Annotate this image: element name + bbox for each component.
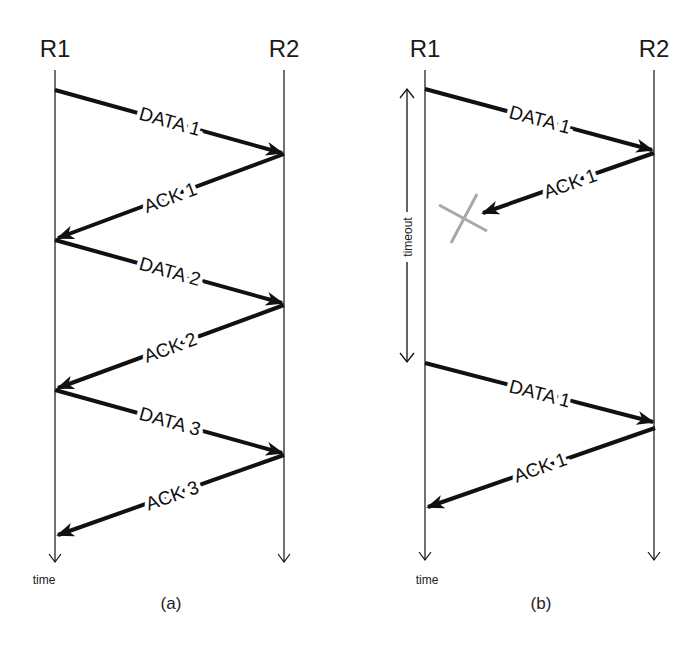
node-label-r1: R1 xyxy=(410,35,441,62)
node-label-r2: R2 xyxy=(269,35,300,62)
message-label: ACK 2 xyxy=(141,328,200,367)
node-label-r1: R1 xyxy=(40,35,71,62)
message-label: DATA 1 xyxy=(507,101,573,138)
timeout-label: timeout xyxy=(401,217,415,257)
message-ack-2: ACK 2 xyxy=(58,305,284,388)
panel-caption: (b) xyxy=(531,594,552,613)
message-data-2: DATA 2 xyxy=(55,240,282,303)
message-label: DATA 3 xyxy=(137,403,203,440)
message-ack-1-lost: ACK 1 xyxy=(439,153,654,243)
panel-caption: (a) xyxy=(161,594,182,613)
message-label: ACK 3 xyxy=(143,476,202,514)
message-ack-3: ACK 3 xyxy=(58,455,284,535)
message-label: ACK 1 xyxy=(141,178,200,217)
time-label: time xyxy=(33,573,56,587)
message-label: ACK 1 xyxy=(541,164,600,202)
message-data-1: DATA 1 xyxy=(425,89,652,150)
message-label: DATA 1 xyxy=(507,375,573,411)
message-label: DATA 1 xyxy=(137,103,203,140)
message-data-3: DATA 3 xyxy=(55,390,282,453)
time-label: time xyxy=(416,573,439,587)
message-data-1: DATA 1 xyxy=(55,90,282,153)
message-ack-1: ACK 1 xyxy=(58,154,284,238)
message-data-1-retransmit: DATA 1 xyxy=(425,363,653,422)
panel-a: R1 R2 DATA 1 ACK 1 DATA 2 ACK 2 DATA 3 xyxy=(33,35,300,613)
message-label: DATA 2 xyxy=(137,253,203,290)
node-label-r2: R2 xyxy=(639,35,670,62)
timeout-interval: timeout xyxy=(400,89,415,362)
lost-packet-x-icon xyxy=(439,194,487,243)
sequence-diagram: R1 R2 DATA 1 ACK 1 DATA 2 ACK 2 DATA 3 xyxy=(0,0,698,646)
panel-b: R1 R2 timeout DATA 1 ACK 1 xyxy=(400,35,669,613)
message-ack-1: ACK 1 xyxy=(428,428,655,507)
message-label: ACK 1 xyxy=(511,449,570,487)
